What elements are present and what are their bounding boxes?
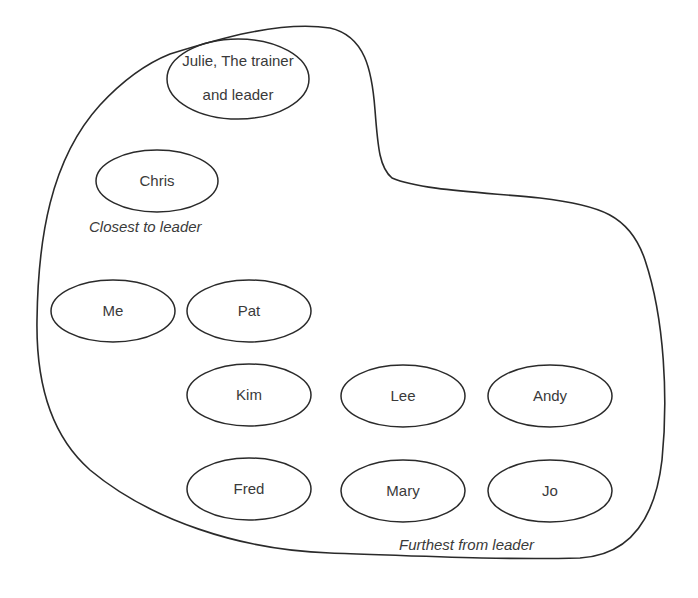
node-label: Lee: [390, 387, 415, 404]
node-label: Julie, The trainer: [182, 52, 293, 69]
node-julie: Julie, The trainer and leader: [167, 39, 309, 119]
node-label: Me: [103, 302, 124, 319]
node-fred: Fred: [187, 458, 311, 520]
node-mary: Mary: [341, 460, 465, 522]
node-label: Andy: [533, 387, 568, 404]
node-andy: Andy: [488, 365, 612, 427]
closest-annotation: Closest to leader: [89, 218, 203, 235]
node-label: Fred: [234, 480, 265, 497]
node-label: Jo: [542, 482, 558, 499]
node-label: Pat: [238, 302, 261, 319]
node-pat: Pat: [187, 280, 311, 342]
node-lee: Lee: [341, 365, 465, 427]
node-chris: Chris: [96, 150, 218, 212]
node-label: Kim: [236, 386, 262, 403]
node-label: Chris: [139, 172, 174, 189]
group-diagram: Julie, The trainer and leader Chris Clos…: [0, 0, 698, 598]
group-boundary-outline: [37, 26, 665, 558]
furthest-annotation: Furthest from leader: [399, 536, 535, 553]
node-label: and leader: [203, 86, 274, 103]
node-jo: Jo: [488, 460, 612, 522]
node-me: Me: [51, 280, 175, 342]
node-kim: Kim: [187, 364, 311, 426]
node-label: Mary: [386, 482, 420, 499]
